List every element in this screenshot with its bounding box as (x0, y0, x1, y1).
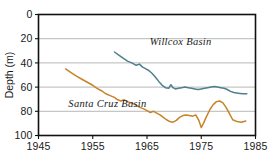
y-axis-title: Depth (m) (3, 52, 15, 99)
x-tick-label: 1985 (243, 140, 267, 152)
y-tick-label: 80 (20, 105, 32, 117)
x-tick-label: 1965 (135, 140, 159, 152)
series-label-willcox-basin: Willcox Basin (150, 36, 212, 47)
y-tick-label: 0 (26, 8, 32, 20)
groundwater-depth-chart: 020406080100 19451955196519751985 Depth … (0, 0, 270, 160)
y-tick-label: 20 (20, 32, 32, 44)
y-axis-tick-labels: 020406080100 (14, 8, 32, 141)
series-line-willcox-basin (114, 52, 246, 94)
y-tick-label: 60 (20, 81, 32, 93)
series-label-santa-cruz-basin: Santa Cruz Basin (68, 98, 146, 109)
chart-canvas: 020406080100 19451955196519751985 Depth … (0, 0, 270, 160)
x-tick-label: 1975 (189, 140, 213, 152)
y-tick-label: 40 (20, 57, 32, 69)
x-tick-label: 1955 (81, 140, 105, 152)
series-annotations-group: Willcox BasinSanta Cruz Basin (68, 36, 211, 109)
x-tick-label: 1945 (26, 140, 50, 152)
plot-frame (39, 15, 256, 136)
x-axis-tick-labels: 19451955196519751985 (26, 140, 267, 152)
data-series-group (66, 52, 247, 128)
